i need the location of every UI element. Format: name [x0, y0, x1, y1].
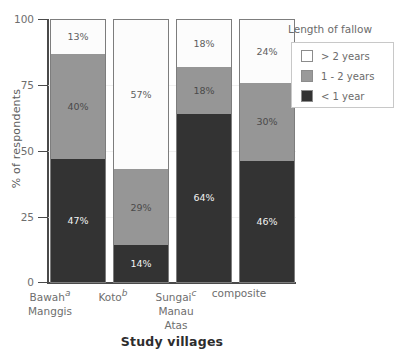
segment-value-label: 24%	[256, 47, 277, 57]
segment-gt2-years[interactable]: 13%	[51, 20, 105, 54]
y-tick-label-75: 75	[0, 79, 34, 91]
y-tick-label-50: 50	[0, 145, 34, 157]
bar-sungai-manau-atas[interactable]: 18% 18% 64%	[176, 19, 232, 283]
y-tick-mark-25	[38, 217, 48, 218]
x-label-line1: Bawah	[30, 291, 65, 303]
white-swatch-icon	[301, 50, 313, 62]
legend-item-label: 1 - 2 years	[321, 71, 374, 82]
bar-bawah-manggis[interactable]: 13% 40% 47%	[50, 19, 106, 283]
y-tick-mark-100	[38, 19, 48, 20]
segment-1to2-years[interactable]: 18%	[177, 67, 231, 114]
segment-value-label: 14%	[130, 259, 151, 269]
segment-gt2-years[interactable]: 57%	[114, 20, 168, 169]
bar-koto[interactable]: 57% 29% 14%	[113, 19, 169, 283]
x-label-line1: composite	[212, 287, 266, 299]
x-label-superscript: a	[65, 288, 71, 298]
legend-box: > 2 years 1 - 2 years < 1 year	[291, 42, 394, 108]
x-axis-title: Study villages	[48, 334, 296, 349]
x-label-superscript: b	[122, 288, 128, 298]
y-tick-mark-0	[38, 282, 48, 283]
y-tick-label-100: 100	[0, 13, 34, 25]
bar-composite[interactable]: 24% 30% 46%	[239, 19, 295, 283]
segment-value-label: 13%	[67, 32, 88, 42]
x-label-line3: Atas	[136, 318, 216, 332]
segment-value-label: 46%	[256, 217, 277, 227]
segment-value-label: 40%	[67, 102, 88, 112]
black-swatch-icon	[301, 90, 313, 102]
stacked-bar-chart: % of respondents 100 75 50 25 0 13% 40% …	[0, 0, 403, 351]
segment-value-label: 64%	[193, 193, 214, 203]
segment-1to2-years[interactable]: 30%	[240, 83, 294, 162]
segment-value-label: 18%	[193, 39, 214, 49]
segment-1to2-years[interactable]: 29%	[114, 169, 168, 245]
legend-item-lt1-year[interactable]: < 1 year	[301, 90, 364, 102]
segment-lt1-year[interactable]: 14%	[114, 245, 168, 282]
segment-value-label: 29%	[130, 203, 151, 213]
x-label-line1: Koto	[98, 291, 121, 303]
y-axis-title: % of respondents	[10, 49, 23, 229]
segment-lt1-year[interactable]: 47%	[51, 159, 105, 282]
y-tick-mark-75	[38, 85, 48, 86]
y-tick-label-25: 25	[0, 211, 34, 223]
y-tick-mark-50	[38, 151, 48, 152]
segment-value-label: 57%	[130, 90, 151, 100]
x-label-line2: Manggis	[10, 304, 90, 318]
x-label-superscript: c	[192, 288, 197, 298]
legend-title: Length of fallow	[288, 23, 372, 35]
gray-swatch-icon	[301, 70, 313, 82]
segment-lt1-year[interactable]: 46%	[240, 161, 294, 282]
segment-value-label: 30%	[256, 117, 277, 127]
x-label-line1: Sungai	[156, 291, 192, 303]
segment-1to2-years[interactable]: 40%	[51, 54, 105, 159]
x-label-line2: Manau	[136, 304, 216, 318]
plot-area: 13% 40% 47% 57% 29% 14% 18% 18% 64% 24% …	[48, 19, 296, 283]
segment-value-label: 47%	[67, 216, 88, 226]
segment-gt2-years[interactable]: 24%	[240, 20, 294, 83]
legend-item-gt2-years[interactable]: > 2 years	[301, 50, 370, 62]
segment-value-label: 18%	[193, 86, 214, 96]
x-tick-label-composite: composite	[199, 286, 279, 300]
segment-lt1-year[interactable]: 64%	[177, 114, 231, 282]
legend-item-label: > 2 years	[321, 51, 370, 62]
segment-gt2-years[interactable]: 18%	[177, 20, 231, 67]
legend-item-label: < 1 year	[321, 91, 364, 102]
legend-item-1to2-years[interactable]: 1 - 2 years	[301, 70, 374, 82]
